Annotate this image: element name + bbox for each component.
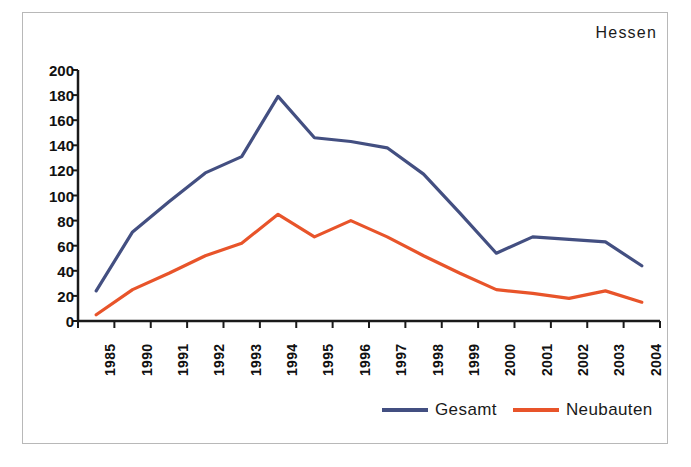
legend-label: Gesamt xyxy=(435,400,497,420)
x-tick-label: 1995 xyxy=(320,344,336,376)
chart-legend: GesamtNeubauten xyxy=(382,400,653,420)
x-tick-label: 1992 xyxy=(211,344,227,376)
x-tick-label: 1994 xyxy=(284,344,300,376)
legend-color-swatch xyxy=(513,408,559,412)
x-tick-label: 2002 xyxy=(575,344,591,376)
x-axis-tick-labels: 1985199019911992199319941995199619971998… xyxy=(0,0,691,467)
x-tick-label: 2001 xyxy=(539,344,555,376)
x-tick-label: 1993 xyxy=(248,344,264,376)
x-tick-label: 1999 xyxy=(466,344,482,376)
chart-figure: Hessen 020406080100120140160180200 19851… xyxy=(0,0,691,467)
legend-label: Neubauten xyxy=(566,400,653,420)
x-tick-label: 1985 xyxy=(102,344,118,376)
x-tick-label: 1996 xyxy=(357,344,373,376)
x-tick-label: 1990 xyxy=(139,344,155,376)
x-tick-label: 1997 xyxy=(393,344,409,376)
x-tick-label: 2000 xyxy=(502,344,518,376)
legend-item-neubauten[interactable]: Neubauten xyxy=(513,400,653,420)
x-tick-label: 1998 xyxy=(430,344,446,376)
x-tick-label: 1991 xyxy=(175,344,191,376)
legend-color-swatch xyxy=(382,408,428,412)
x-tick-label: 2004 xyxy=(648,344,664,376)
x-tick-label: 2003 xyxy=(611,344,627,376)
legend-item-gesamt[interactable]: Gesamt xyxy=(382,400,497,420)
